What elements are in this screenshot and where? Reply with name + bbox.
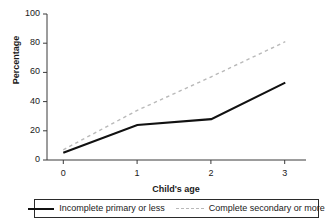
y-tick-label-20: 20 — [14, 126, 40, 135]
series-line-complete-secondary-or-more — [63, 42, 285, 150]
y-axis-ticks — [43, 14, 47, 160]
x-axis-ticks — [63, 160, 284, 164]
legend-entry-incomplete-primary: Incomplete primary or less — [28, 204, 165, 213]
x-tick-label-1: 1 — [125, 169, 149, 178]
x-axis-title: Child's age — [47, 184, 305, 194]
legend-label-incomplete-primary: Incomplete primary or less — [59, 204, 165, 213]
x-tick-label-0: 0 — [51, 169, 75, 178]
y-tick-label-0: 0 — [14, 155, 40, 164]
y-tick-label-80: 80 — [14, 38, 40, 47]
y-tick-label-60: 60 — [14, 67, 40, 76]
x-tick-label-3: 3 — [273, 169, 297, 178]
legend-label-complete-secondary: Complete secondary or more — [209, 204, 325, 213]
legend-entry-complete-secondary: Complete secondary or more — [176, 204, 325, 213]
dashed-line-swatch-icon — [176, 208, 204, 209]
solid-line-swatch-icon — [28, 208, 54, 210]
x-tick-label-2: 2 — [199, 169, 223, 178]
line-chart-figure: Percentage 100 80 60 40 20 0 0 1 2 3 Chi… — [0, 0, 332, 224]
chart-legend: Incomplete primary or less Complete seco… — [34, 199, 319, 218]
y-tick-label-40: 40 — [14, 97, 40, 106]
y-tick-label-100: 100 — [14, 9, 40, 18]
